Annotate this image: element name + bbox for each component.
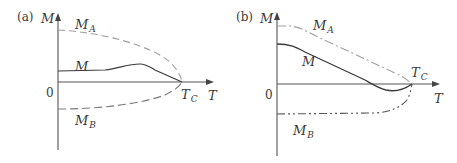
panel-b-label-TC: TC bbox=[411, 66, 428, 79]
panel-b-x-axis-arrow-icon bbox=[432, 81, 440, 87]
panel-b-label-MA-main: M bbox=[313, 18, 326, 33]
panel-b-y-axis-arrow-icon bbox=[274, 12, 280, 20]
panel-a-x-axis-label: T bbox=[208, 89, 217, 102]
panel-b-tag: (b) bbox=[236, 11, 253, 23]
panel-b-label-TC-main: T bbox=[411, 65, 420, 80]
panel-a-label-MA-main: M bbox=[75, 17, 88, 32]
panel-a-label-MA-sub: A bbox=[89, 24, 96, 34]
panel-b-curve-MA bbox=[277, 26, 412, 84]
panel-a-y-axis-arrow-icon bbox=[55, 13, 61, 21]
magnetization-temperature-figure: (a) M MA M 0 TC T MB (b) M MA M 0 TC T M… bbox=[0, 0, 457, 163]
panel-b-label-MB-sub: B bbox=[307, 130, 314, 140]
panel-a-origin-label: 0 bbox=[46, 87, 54, 99]
panel-b-label-TC-sub: C bbox=[421, 72, 428, 82]
panel-a-graphics bbox=[55, 13, 214, 150]
panel-a-x-axis-arrow-icon bbox=[206, 79, 214, 85]
panel-a-tag: (a) bbox=[17, 11, 34, 23]
panel-b-origin-label: 0 bbox=[265, 89, 273, 101]
panel-b-label-MB-main: M bbox=[293, 123, 306, 138]
panel-a-label-TC: TC bbox=[181, 88, 198, 101]
panel-a-label-MB: MB bbox=[75, 114, 96, 127]
panel-a-label-M: M bbox=[75, 60, 88, 73]
panel-a-label-TC-main: T bbox=[181, 87, 190, 102]
panel-a-label-MB-sub: B bbox=[89, 120, 96, 130]
panel-a-curve-MB bbox=[58, 82, 182, 109]
panel-b-label-MA-sub: A bbox=[327, 25, 334, 35]
panel-a-label-MA: MA bbox=[75, 18, 96, 31]
panel-b-y-axis-label: M bbox=[260, 12, 273, 25]
panel-b-label-MB: MB bbox=[293, 124, 314, 137]
panel-a-label-TC-sub: C bbox=[191, 94, 198, 104]
panel-b-curve-MB bbox=[277, 84, 412, 114]
panel-b-x-axis-label: T bbox=[434, 92, 443, 105]
panel-b-label-M: M bbox=[302, 55, 315, 68]
panel-a-label-MB-main: M bbox=[75, 113, 88, 128]
figure-graphics bbox=[0, 0, 457, 163]
panel-a-y-axis-label: M bbox=[41, 12, 54, 25]
panel-b-label-MA: MA bbox=[313, 19, 334, 32]
